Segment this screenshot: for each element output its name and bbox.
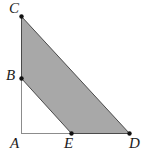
vertex-label-A: A xyxy=(10,136,19,151)
geometry-figure: C B A E D xyxy=(0,0,145,155)
vertex-label-B: B xyxy=(6,68,15,83)
vertex-label-D: D xyxy=(129,136,140,151)
vertex-dot-B xyxy=(19,76,23,80)
vertex-dot-C xyxy=(19,14,23,18)
vertex-label-C: C xyxy=(9,1,19,16)
shaded-region-BCDE xyxy=(22,17,130,134)
vertex-label-E: E xyxy=(64,136,73,151)
figure-canvas xyxy=(0,0,145,155)
